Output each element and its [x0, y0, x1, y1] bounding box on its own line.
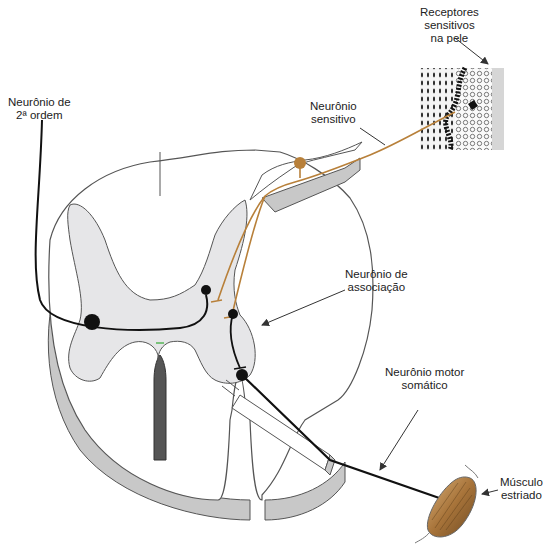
label-skeletal-muscle: Músculo estriado [500, 476, 543, 502]
motor-pointer [380, 410, 418, 470]
sensory-pointer [360, 128, 385, 145]
second-order-cell-body [84, 314, 100, 330]
muscle-tendon-top [465, 465, 478, 478]
muscle-tendon-bottom [415, 532, 430, 543]
label-skin-receptors: Receptores sensitivos na pele [420, 6, 479, 45]
skeletal-muscle [415, 465, 478, 543]
muscle-pointer [482, 490, 498, 494]
muscle-belly [427, 477, 476, 537]
dermis [455, 68, 495, 150]
anterior-fissure [154, 355, 166, 460]
deep-layer [492, 68, 504, 150]
reflex-arc-diagram: Neurônio de 2ª ordem Receptores sensitiv… [0, 0, 552, 546]
label-sensory-neuron: Neurônio sensitivo [310, 100, 357, 126]
skin-block [420, 68, 504, 150]
sensory-cell-body [294, 157, 306, 169]
label-second-order-neuron: Neurônio de 2ª ordem [8, 96, 71, 122]
second-order-dendrite-node [201, 285, 211, 295]
diagram-canvas [0, 0, 552, 546]
label-association-neuron: Neurônio de associação [345, 268, 408, 294]
label-somatic-motor-neuron: Neurônio motor somático [385, 366, 464, 392]
